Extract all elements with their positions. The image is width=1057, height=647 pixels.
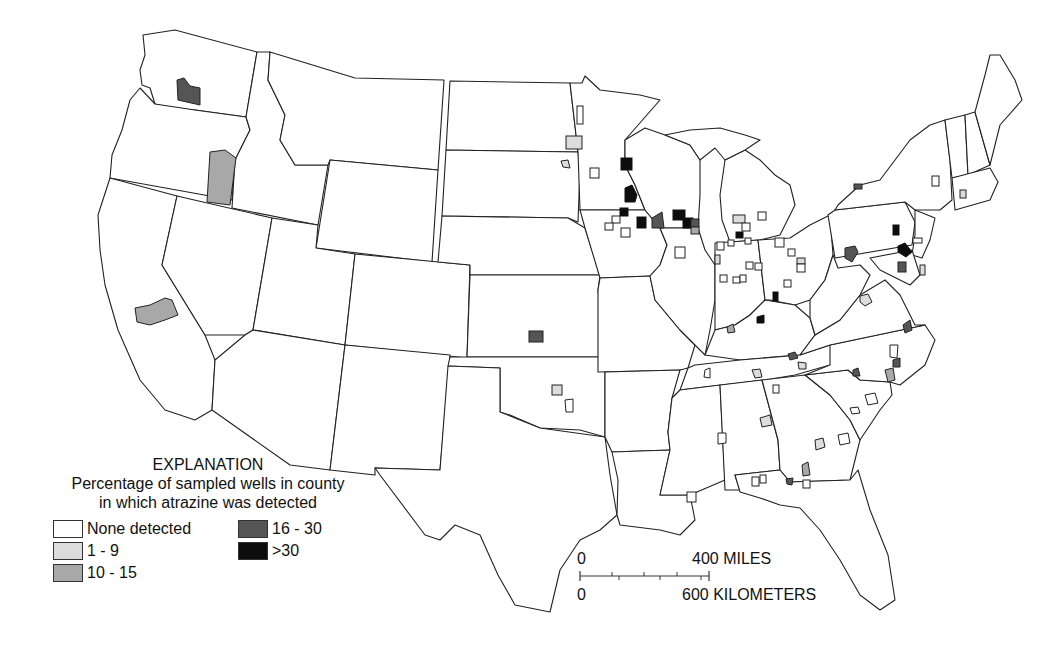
- legend-label: 10 - 15: [87, 564, 137, 582]
- county-16-30: [845, 246, 858, 262]
- county-gt30: [736, 232, 743, 238]
- legend-label: >30: [272, 542, 299, 560]
- legend-item-10-15: 10 - 15: [53, 564, 137, 582]
- county-none: [773, 385, 779, 393]
- legend-item-none: None detected: [53, 520, 191, 538]
- county-16-30: [691, 219, 699, 227]
- county-1-9: [552, 385, 562, 395]
- county-none: [788, 249, 795, 256]
- legend-subtitle-line1: Percentage of sampled wells in county: [38, 474, 378, 493]
- county-none: [687, 492, 696, 502]
- county-1-9: [797, 258, 805, 264]
- county-none: [728, 240, 734, 246]
- county-1-9: [960, 190, 966, 198]
- county-none: [758, 212, 766, 220]
- state-arizona: [212, 330, 345, 470]
- county-none: [720, 275, 727, 282]
- county-1-9: [798, 362, 806, 369]
- county-none: [746, 262, 753, 269]
- legend-item-gt30: >30: [238, 542, 299, 560]
- scale-bar: 0 400 MILES 0 600 KILOMETERS: [577, 550, 857, 610]
- county-none: [760, 475, 766, 483]
- county-1-9: [715, 255, 720, 264]
- legend-label: 16 - 30: [272, 520, 322, 538]
- legend-label: None detected: [87, 520, 191, 538]
- state-new-york: [835, 120, 952, 210]
- scale-miles-zero: 0: [577, 550, 586, 568]
- state-montana: [268, 52, 444, 170]
- county-none: [755, 263, 762, 270]
- county-16-30: [529, 331, 543, 342]
- county-none: [621, 228, 630, 237]
- county-none: [784, 280, 791, 287]
- county-gt30: [621, 158, 632, 170]
- county-none: [742, 223, 750, 231]
- scale-ruler: [579, 570, 714, 582]
- state-kansas: [467, 275, 605, 357]
- county-none: [865, 393, 878, 405]
- county-none: [740, 275, 746, 282]
- county-gt30: [893, 225, 899, 235]
- swatch-gt30: [238, 542, 268, 560]
- county-16-30: [854, 184, 862, 189]
- county-10-15: [802, 462, 810, 476]
- county-none: [590, 168, 599, 178]
- county-none: [675, 247, 685, 258]
- county-none: [913, 238, 922, 243]
- county-gt30: [773, 292, 778, 301]
- legend-item-16-30: 16 - 30: [238, 520, 322, 538]
- county-16-30: [893, 358, 900, 367]
- county-none: [775, 238, 784, 247]
- legend-subtitle-line2: in which atrazine was detected: [38, 493, 378, 512]
- legend-item-1-9: 1 - 9: [53, 542, 119, 560]
- county-none: [745, 238, 751, 244]
- scale-km-label: 600 KILOMETERS: [682, 586, 816, 604]
- county-16-30: [786, 478, 793, 485]
- state-michigan: [720, 150, 795, 242]
- county-none: [752, 477, 759, 486]
- scale-km-zero: 0: [577, 586, 586, 604]
- county-none: [838, 433, 850, 445]
- state-south-dakota: [442, 150, 580, 222]
- county-gt30: [620, 208, 628, 216]
- legend-items: None detected 1 - 9 10 - 15 16 - 30 >30: [38, 520, 378, 590]
- swatch-none: [53, 520, 83, 538]
- county-1-9: [920, 265, 925, 275]
- county-16-30: [898, 262, 906, 272]
- county-none: [565, 399, 573, 412]
- swatch-16-30: [238, 520, 268, 538]
- state-north-dakota: [446, 81, 578, 152]
- state-colorado: [345, 254, 470, 358]
- state-maryland: [870, 250, 920, 285]
- county-none: [605, 223, 613, 230]
- county-none: [797, 264, 805, 272]
- county-none: [850, 407, 860, 414]
- scale-miles-label: 400 MILES: [692, 550, 771, 568]
- county-none: [718, 433, 726, 444]
- county-1-9: [566, 136, 582, 149]
- swatch-10-15: [53, 564, 83, 582]
- county-gt30: [637, 217, 646, 228]
- county-none: [717, 242, 724, 250]
- county-10-15: [691, 227, 699, 234]
- map-legend: EXPLANATION Percentage of sampled wells …: [38, 455, 378, 590]
- county-none: [612, 216, 620, 223]
- state-new-jersey: [912, 210, 935, 258]
- state-wyoming: [316, 160, 438, 262]
- county-none: [577, 106, 583, 124]
- county-none: [733, 277, 740, 283]
- county-none: [890, 345, 898, 358]
- legend-title: EXPLANATION: [38, 455, 378, 474]
- county-1-9: [733, 215, 745, 223]
- county-none: [803, 480, 810, 488]
- county-none: [932, 176, 939, 186]
- county-gt30: [757, 315, 764, 323]
- swatch-1-9: [53, 542, 83, 560]
- legend-label: 1 - 9: [87, 542, 119, 560]
